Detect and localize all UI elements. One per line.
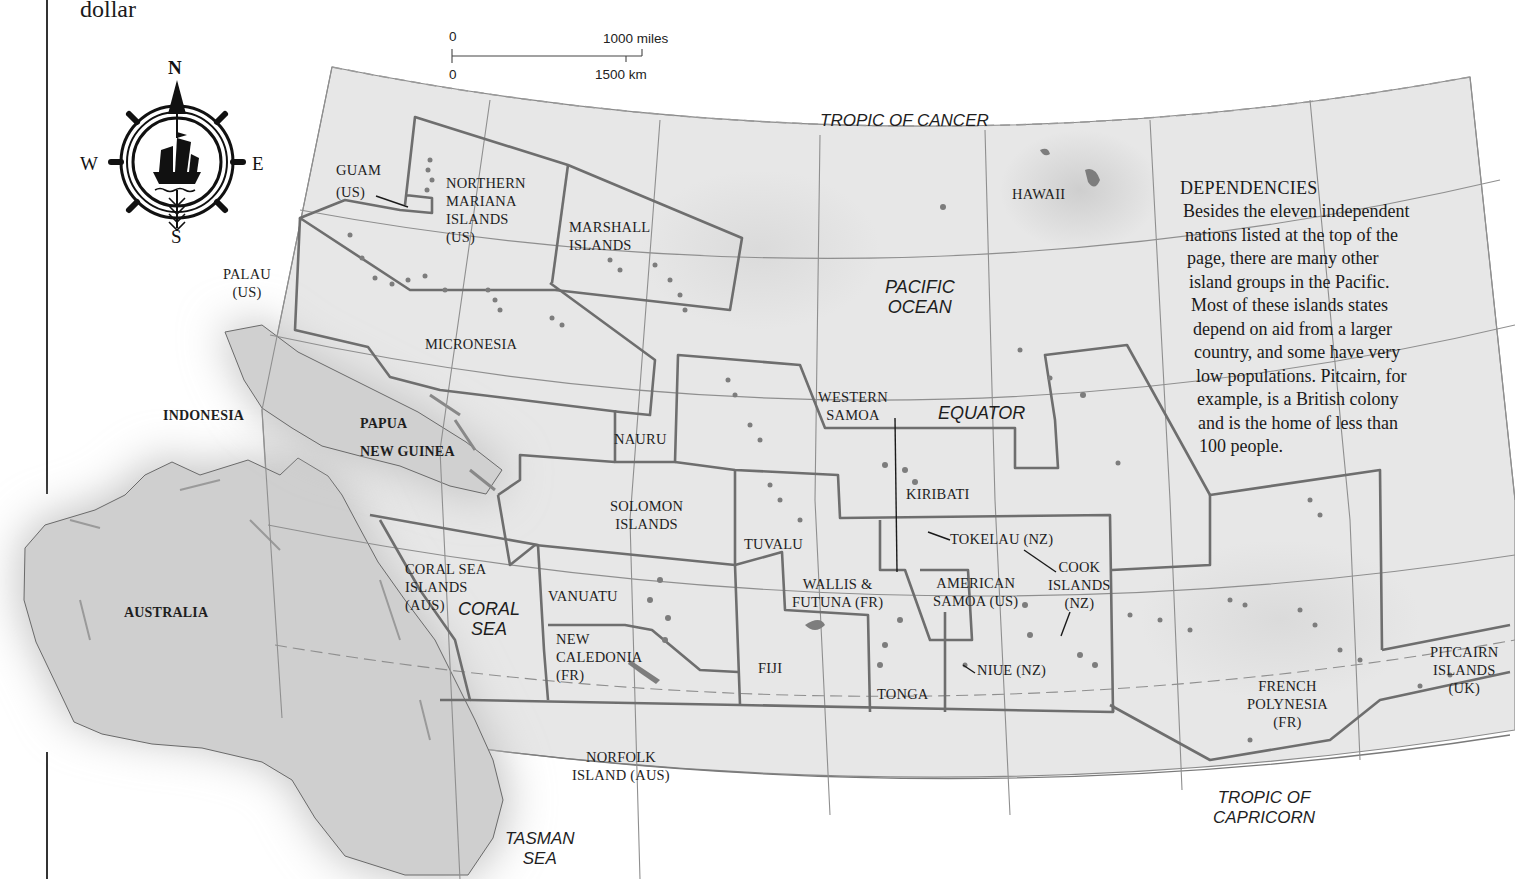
country-australia: AUSTRALIA (124, 604, 208, 622)
info-line: low populations. Pitcairn, for (1180, 365, 1500, 389)
territory-palau: PALAU (US) (223, 265, 271, 301)
territory-vanuatu: VANUATU (548, 587, 618, 605)
info-line: nations listed at the top of the (1180, 224, 1500, 248)
territory-solomon-islands: SOLOMON ISLANDS (610, 497, 683, 533)
info-line: depend on aid from a larger (1180, 318, 1500, 342)
compass-south-label: S (171, 226, 182, 248)
territory-guam: GUAM (336, 161, 381, 179)
ship-wheel-compass-icon (111, 80, 243, 230)
info-line: Besides the eleven independent (1180, 200, 1500, 224)
scale-km-max: 1500 km (595, 67, 647, 82)
territory-new-caledonia: NEW CALEDONIA (FR) (556, 630, 642, 684)
info-line: country, and some have very (1180, 341, 1500, 365)
info-line: Most of these islands states (1180, 294, 1500, 318)
scale-bar (452, 49, 642, 63)
tasman-sea-label: TASMAN SEA (505, 829, 575, 869)
territory-guam-owner: (US) (336, 183, 365, 201)
territory-marshall-islands: MARSHALL ISLANDS (569, 218, 650, 254)
territory-pitcairn-islands: PITCAIRN ISLANDS (UK) (1430, 643, 1498, 697)
territory-tonga: TONGA (877, 685, 928, 703)
territory-french-polynesia: FRENCH POLYNESIA (FR) (1247, 677, 1328, 731)
territory-norfolk-island: NORFOLK ISLAND (AUS) (572, 748, 670, 784)
territory-tuvalu: TUVALU (744, 535, 803, 553)
info-line: and is the home of less than (1180, 412, 1500, 436)
info-line: 100 people. (1180, 435, 1500, 459)
scale-miles-max: 1000 miles (603, 31, 668, 46)
territory-tokelau: TOKELAU (NZ) (950, 530, 1053, 548)
info-line: page, there are many other (1180, 247, 1500, 271)
territory-kiribati: KIRIBATI (906, 485, 970, 503)
compass-east-label: E (252, 153, 264, 175)
equator-label: EQUATOR (938, 403, 1025, 423)
tropic-of-capricorn-label: TROPIC OF CAPRICORN (1213, 788, 1315, 828)
compass-north-label: N (168, 57, 182, 79)
info-line: example, is a British colony (1180, 388, 1500, 412)
territory-nauru: NAURU (614, 430, 667, 448)
territory-cook-islands: COOK ISLANDS (NZ) (1048, 558, 1111, 612)
country-new-guinea: NEW GUINEA (360, 443, 455, 461)
territory-american-samoa: AMERICAN SAMOA (US) (933, 574, 1018, 610)
territory-niue: NIUE (NZ) (977, 661, 1046, 679)
territory-fiji: FIJI (758, 659, 782, 677)
territory-wallis-futuna: WALLIS & FUTUNA (FR) (792, 575, 883, 611)
territory-northern-mariana: NORTHERN MARIANA ISLANDS (US) (446, 174, 526, 246)
info-line: island groups in the Pacific. (1180, 271, 1500, 295)
info-box-body: Besides the eleven independent nations l… (1180, 200, 1500, 459)
info-box-title: DEPENDENCIES (1180, 178, 1500, 199)
dependencies-info-box: DEPENDENCIES Besides the eleven independ… (1180, 178, 1500, 459)
compass-west-label: W (80, 153, 98, 175)
scale-km-zero: 0 (449, 67, 457, 82)
territory-coral-sea-islands: CORAL SEA ISLANDS (AUS) (405, 560, 486, 614)
territory-micronesia: MICRONESIA (425, 335, 517, 353)
territory-western-samoa: WESTERN SAMOA (818, 388, 888, 424)
country-papua: PAPUA (360, 415, 407, 433)
territory-hawaii: HAWAII (1012, 185, 1065, 203)
tropic-of-cancer-label: TROPIC OF CANCER (820, 111, 989, 131)
pacific-ocean-label: PACIFIC OCEAN (885, 277, 955, 317)
scale-miles-zero: 0 (449, 29, 457, 44)
country-indonesia: INDONESIA (163, 407, 244, 425)
